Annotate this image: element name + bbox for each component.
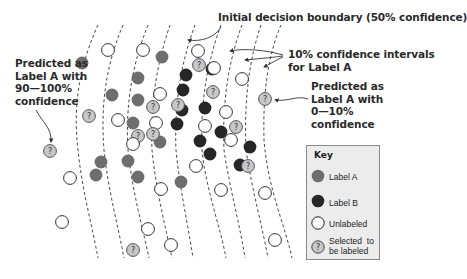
legend-label-a: Label A — [329, 172, 357, 182]
unlabeled-point — [236, 73, 249, 86]
decision-boundary-annotation: Initial decision boundary (50% confidenc… — [218, 11, 467, 24]
legend-unlabeled: Unlabeled — [329, 219, 367, 229]
label-b-point — [180, 69, 193, 82]
label-a-point — [127, 117, 140, 130]
svg-text:?: ? — [316, 243, 320, 252]
label-b-swatch-icon — [311, 194, 325, 208]
selected-point: ? — [193, 59, 206, 72]
label-a-point — [122, 155, 135, 168]
unlabeled-point — [269, 234, 282, 247]
selected-point: ? — [230, 121, 243, 134]
unlabeled-point — [165, 239, 178, 252]
selected-point: ? — [83, 110, 96, 123]
label-b-point — [204, 148, 217, 161]
low-confidence-arrow — [275, 98, 308, 101]
label-a-swatch-icon — [311, 169, 325, 183]
label-a-point — [90, 169, 103, 182]
svg-text:?: ? — [197, 61, 201, 70]
label-a-point — [156, 51, 169, 64]
label-b-point — [177, 84, 190, 97]
svg-text:?: ? — [263, 95, 267, 104]
unlabeled-point — [155, 183, 168, 196]
low-confidence-annotation: Predicted as Label A with 0—10% confiden… — [311, 80, 384, 130]
svg-text:?: ? — [151, 103, 155, 112]
selected-point: ? — [207, 86, 220, 99]
label-b-point — [194, 135, 207, 148]
svg-text:?: ? — [211, 88, 215, 97]
label-a-point — [132, 171, 145, 184]
unlabeled-point — [259, 187, 272, 200]
svg-text:?: ? — [151, 130, 155, 139]
svg-text:?: ? — [246, 162, 250, 171]
unlabeled-point — [215, 184, 228, 197]
interval-line-2 — [103, 25, 124, 258]
label-b-point — [199, 102, 212, 115]
selected-point: ? — [147, 128, 160, 141]
label-a-point — [175, 176, 188, 189]
unlabeled-point — [225, 134, 238, 147]
legend-title: Key — [314, 150, 333, 160]
svg-text:?: ? — [48, 147, 52, 156]
selected-swatch-icon: ? — [311, 240, 325, 254]
unlabeled-point — [192, 45, 205, 58]
confidence-interval-lines — [76, 25, 292, 258]
label-a-point — [132, 94, 145, 107]
interval-arrow-1 — [230, 50, 283, 55]
label-a-point — [132, 72, 145, 85]
svg-text:?: ? — [87, 112, 91, 121]
legend: Key Label A Label B Unlabeled ? Selected… — [306, 145, 380, 260]
label-b-point — [171, 118, 184, 131]
unlabeled-point — [56, 216, 69, 229]
selected-point: ? — [127, 244, 140, 257]
unlabeled-point — [127, 138, 140, 151]
confidence-intervals-annotation: 10% confidence intervals for Label A — [288, 48, 435, 73]
unlabeled-point — [64, 172, 77, 185]
label-a-point — [106, 89, 119, 102]
high-confidence-annotation: Predicted as Label A with 90—100% confid… — [15, 57, 88, 107]
selected-point: ? — [147, 101, 160, 114]
selected-point: ? — [259, 93, 272, 106]
interval-arrow-3 — [264, 57, 283, 67]
legend-label-b: Label B — [329, 198, 358, 208]
unlabeled-point — [208, 62, 221, 75]
unlabeled-point — [112, 114, 125, 127]
unlabeled-point — [220, 106, 233, 119]
high-confidence-arrow — [36, 110, 51, 142]
svg-text:?: ? — [176, 101, 180, 110]
selected-point: ? — [242, 160, 255, 173]
svg-text:?: ? — [131, 246, 135, 255]
decision-boundary-arrow — [188, 27, 221, 40]
selected-point: ? — [172, 99, 185, 112]
unlabeled-point — [102, 44, 115, 57]
unlabeled-point — [199, 120, 212, 133]
unlabeled-point — [137, 44, 150, 57]
unlabeled-point — [154, 88, 167, 101]
label-a-point — [95, 156, 108, 169]
label-b-point — [244, 141, 257, 154]
unlabeled-point — [190, 160, 203, 173]
unlabeled-swatch-icon — [311, 216, 325, 230]
decision-boundary-line — [176, 25, 195, 258]
legend-selected: Selected to be labeled — [329, 236, 374, 256]
unlabeled-point — [142, 223, 155, 236]
svg-text:?: ? — [234, 123, 238, 132]
selected-point: ? — [44, 145, 57, 158]
